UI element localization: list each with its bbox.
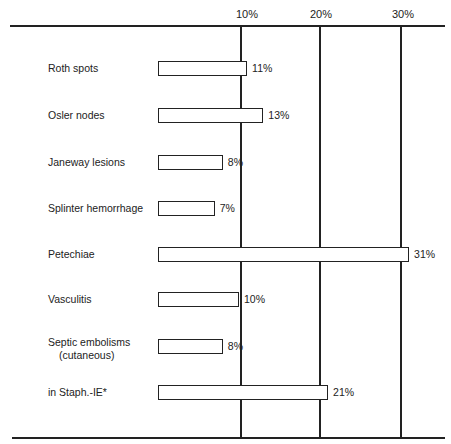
category-label: Septic embolisms(cutaneous)	[48, 336, 130, 362]
bar	[158, 385, 328, 400]
category-label: Osler nodes	[48, 109, 105, 122]
value-label: 7%	[220, 202, 235, 214]
gridline-20	[319, 25, 321, 438]
value-label: 31%	[414, 248, 435, 260]
bar	[158, 108, 263, 123]
tick-20: 20%	[310, 8, 332, 20]
category-label: Splinter hemorrhage	[48, 202, 143, 215]
bar	[158, 247, 409, 262]
category-label: Vasculitis	[48, 293, 92, 306]
value-label: 21%	[333, 386, 354, 398]
value-label: 10%	[244, 293, 265, 305]
top-axis-line	[10, 25, 445, 27]
value-label: 11%	[252, 62, 272, 74]
gridline-10	[240, 25, 242, 438]
category-label: Roth spots	[48, 62, 98, 75]
value-label: 8%	[228, 156, 243, 168]
chart: 10% 20% 30% Roth spots11%Osler nodes13%J…	[0, 0, 451, 444]
bar	[158, 155, 223, 170]
bar	[158, 292, 239, 307]
category-label: in Staph.-IE*	[48, 386, 107, 399]
bottom-axis-line	[12, 437, 445, 439]
category-label: Petechiae	[48, 248, 95, 261]
gridline-30	[400, 25, 402, 438]
category-label: Janeway lesions	[48, 156, 125, 169]
bar	[158, 339, 223, 354]
value-label: 8%	[228, 340, 243, 352]
bar	[158, 201, 215, 216]
tick-10: 10%	[236, 8, 258, 20]
tick-30: 30%	[392, 8, 414, 20]
bar	[158, 61, 247, 76]
value-label: 13%	[268, 109, 289, 121]
